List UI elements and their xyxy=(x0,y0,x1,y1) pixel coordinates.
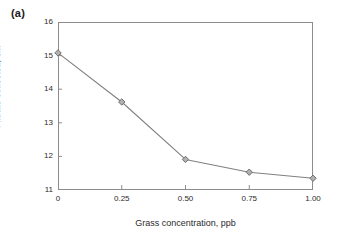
y-axis-tick-label: 14 xyxy=(44,85,53,93)
panel-label: (a) xyxy=(11,8,25,19)
x-axis-label: Grass concentration, ppb xyxy=(58,219,313,228)
x-axis-tick-label: 1.00 xyxy=(305,195,321,203)
y-axis-label-text: Filtrate collected, cm xyxy=(0,46,2,129)
data-point-marker xyxy=(310,175,316,181)
y-axis-tick-label: 11 xyxy=(45,186,53,194)
x-axis-tick-labels: 00.250.500.751.00 xyxy=(58,195,313,207)
y-axis-tick-label: 16 xyxy=(44,18,53,26)
y-axis-tick-label: 12 xyxy=(44,152,53,160)
y-axis-tick-label: 13 xyxy=(44,119,53,127)
data-series-svg xyxy=(58,22,313,190)
x-axis-tick-label: 0.50 xyxy=(178,195,194,203)
figure-panel: (a) Filtrate collected, cm3 111213141516… xyxy=(0,0,338,244)
data-point-marker xyxy=(246,169,252,175)
y-axis-tick-label: 15 xyxy=(44,52,53,60)
series-markers xyxy=(55,50,316,182)
x-axis-tick-label: 0.25 xyxy=(114,195,130,203)
y-axis-label: Filtrate collected, cm3 xyxy=(0,1,7,169)
plot-area xyxy=(58,22,313,190)
x-axis-tick-label: 0.75 xyxy=(241,195,257,203)
x-axis-tick-label: 0 xyxy=(56,195,60,203)
y-axis-tick-labels: 111213141516 xyxy=(34,22,53,190)
tick-marks xyxy=(58,56,313,190)
